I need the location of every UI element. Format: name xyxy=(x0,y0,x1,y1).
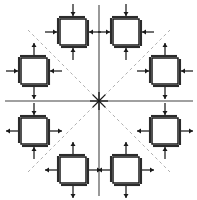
stress-element-diagram xyxy=(0,0,197,200)
diagram-canvas xyxy=(0,0,197,200)
element-square xyxy=(60,157,86,183)
element-square xyxy=(113,19,139,45)
element-square xyxy=(60,19,86,45)
element-square xyxy=(21,58,47,84)
element-square xyxy=(21,118,47,144)
element-square xyxy=(152,118,178,144)
element-square xyxy=(152,58,178,84)
center-star-marker xyxy=(90,92,108,110)
element-square xyxy=(113,157,139,183)
